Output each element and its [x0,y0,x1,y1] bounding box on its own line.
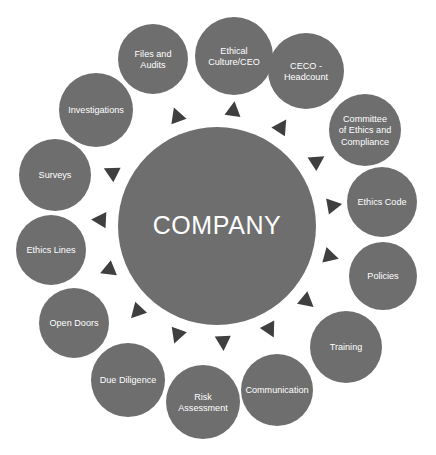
hub-label: COMPANY [153,211,282,239]
ethics-compliance-radial-diagram: COMPANY EthicalCulture/CEOCECO -Headcoun… [0,0,436,455]
node-label-investigations: Investigations [68,105,124,115]
arrow-training [297,291,319,313]
arrow-triangle-icon [322,247,340,266]
arrow-triangle-icon [97,260,117,280]
arrow-policies [322,247,340,266]
arrow-triangle-icon [91,211,107,228]
node-files-and-audits[interactable]: Files andAudits [118,24,188,94]
arrow-triangle-icon [260,321,281,342]
arrow-triangle-icon [326,196,343,214]
node-label-open-doors: Open Doors [49,318,98,328]
node-due-diligence[interactable]: Due Diligence [91,343,165,417]
node-training[interactable]: Training [310,311,382,383]
node-label-ceco-headcount: CECO -Headcount [284,61,328,83]
node-surveys[interactable]: Surveys [19,139,91,211]
arrow-committee [308,149,329,171]
node-label-training: Training [330,342,363,352]
node-open-doors[interactable]: Open Doors [39,288,109,358]
arrow-investigations [100,161,121,182]
node-label-ethics-lines: Ethics Lines [26,245,75,255]
arrow-triangle-icon [215,336,232,352]
arrow-triangle-icon [125,302,147,324]
arrow-triangle-icon [308,149,329,171]
arrow-triangle-icon [100,161,121,182]
node-ethics-code[interactable]: Ethics Code [347,167,417,237]
arrow-surveys [91,211,107,228]
hub-group: COMPANY [118,127,316,325]
arrow-triangle-icon [224,100,242,117]
arrow-triangle-icon [271,115,293,136]
node-label-policies: Policies [367,271,399,281]
node-circle-risk-assessment [166,365,240,439]
node-circle-ethical-culture-ceo [195,17,273,95]
arrow-ethics-code [326,196,343,214]
node-label-ethics-code: Ethics Code [357,197,406,207]
node-label-surveys: Surveys [39,170,72,180]
arrow-due-diligence [167,327,187,346]
arrow-open-doors [125,302,147,324]
node-circle-ceco-headcount [268,33,344,109]
node-policies[interactable]: Policies [349,242,417,310]
arrow-triangle-icon [167,327,187,346]
node-risk-assessment[interactable]: RiskAssessment [166,365,240,439]
arrow-ceco-headcount [271,115,293,136]
node-ceco-headcount[interactable]: CECO -Headcount [268,33,344,109]
hub-node-company[interactable]: COMPANY [118,127,316,325]
arrow-ethics-lines [97,260,117,280]
node-label-due-diligence: Due Diligence [100,375,157,385]
arrow-communication [260,321,281,342]
node-communication[interactable]: Communication [241,354,313,426]
arrow-triangle-icon [166,105,186,124]
arrow-ethical-culture-ceo [224,100,242,117]
node-ethics-lines[interactable]: Ethics Lines [16,215,86,285]
node-committee-of-ethics-and-compliance[interactable]: Committeeof Ethics andCompliance [329,94,401,166]
node-label-communication: Communication [245,385,308,395]
node-investigations[interactable]: Investigations [59,73,133,147]
arrow-risk-assessment [215,336,232,352]
diagram-canvas: COMPANY EthicalCulture/CEOCECO -Headcoun… [0,0,436,455]
node-label-committee-of-ethics-and-compliance: Committeeof Ethics andCompliance [339,114,392,147]
node-circle-files-and-audits [118,24,188,94]
arrow-files-and-audits [166,105,186,124]
arrow-triangle-icon [297,291,319,313]
node-ethical-culture-ceo[interactable]: EthicalCulture/CEO [195,17,273,95]
